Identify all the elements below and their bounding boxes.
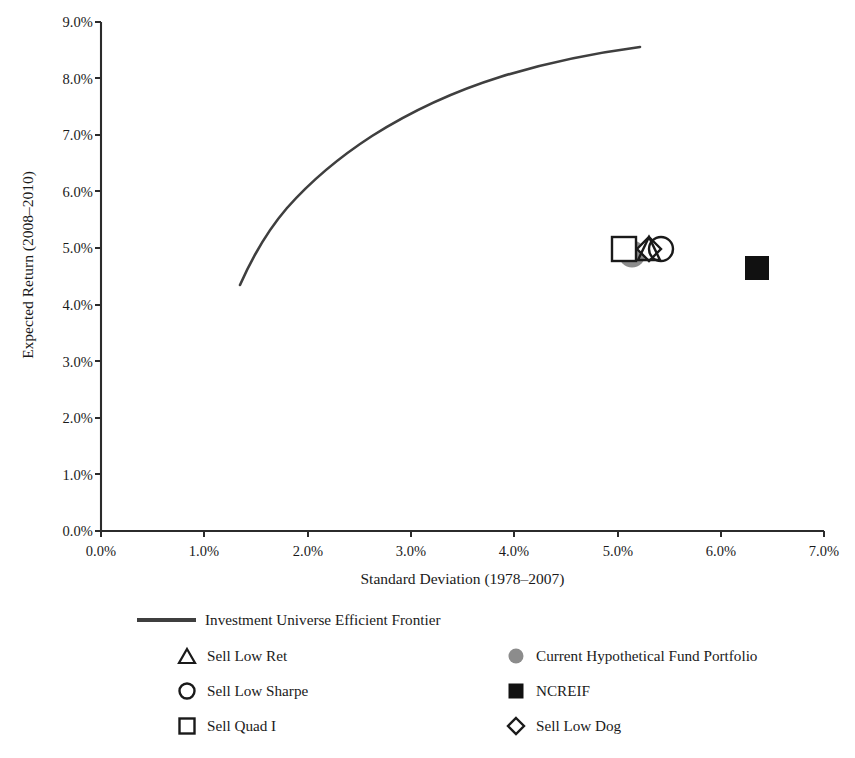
legend-label: Current Hypothetical Fund Portfolio: [536, 648, 757, 663]
legend-item-sell-low-ret: Sell Low Ret: [176, 645, 287, 667]
legend-label: NCREIF: [536, 683, 590, 698]
legend-item-efficient-frontier: Investment Universe Efficient Frontier: [137, 612, 440, 627]
data-point-sell-quad-i: [612, 237, 636, 261]
square-open-icon: [176, 715, 198, 737]
data-point-ncreif: [745, 256, 769, 280]
legend-label: Sell Quad I: [207, 718, 276, 733]
square-filled-icon: [505, 680, 527, 702]
legend-label: Sell Low Ret: [207, 648, 287, 663]
diamond-open-icon: [505, 715, 527, 737]
legend-label: Sell Low Sharpe: [207, 683, 308, 698]
line-swatch-icon: [137, 618, 196, 622]
legend-label: Investment Universe Efficient Frontier: [205, 612, 440, 627]
legend-item-ncreif: NCREIF: [505, 680, 590, 702]
efficient-frontier-curve: [240, 47, 640, 285]
legend-item-sell-low-sharpe: Sell Low Sharpe: [176, 680, 308, 702]
circle-filled-icon: [505, 645, 527, 667]
legend-label: Sell Low Dog: [536, 718, 621, 733]
plot-area: [0, 0, 855, 600]
efficient-frontier-chart: 9.0% 8.0% 7.0% 6.0% 5.0% 4.0% 3.0% 2.0% …: [0, 0, 855, 758]
triangle-open-icon: [176, 645, 198, 667]
legend-item-sell-low-dog: Sell Low Dog: [505, 715, 621, 737]
circle-open-icon: [176, 680, 198, 702]
chart-legend: Investment Universe Efficient Frontier S…: [0, 604, 855, 758]
legend-item-sell-quad-i: Sell Quad I: [176, 715, 276, 737]
legend-item-current-hypothetical-fund-portfolio: Current Hypothetical Fund Portfolio: [505, 645, 757, 667]
